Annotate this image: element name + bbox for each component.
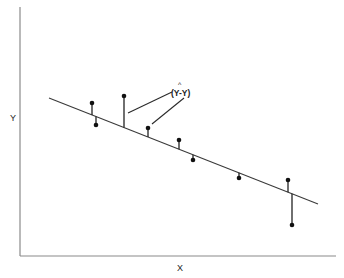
- data-point: [94, 123, 99, 128]
- data-point: [146, 126, 151, 131]
- annotation-hat: ^: [178, 81, 182, 88]
- data-point: [177, 138, 182, 143]
- annotation-label: (Y-Y): [171, 88, 191, 98]
- leader-line: [152, 98, 184, 124]
- data-point: [191, 158, 196, 163]
- data-point: [290, 223, 295, 228]
- regression-residual-diagram: Y X ^ (Y-Y): [0, 0, 344, 278]
- data-point: [90, 101, 95, 106]
- regression-line: [49, 98, 318, 204]
- y-axis-label: Y: [10, 113, 16, 123]
- data-point: [286, 178, 291, 183]
- x-axis-label: X: [177, 263, 183, 273]
- data-point: [237, 176, 242, 181]
- data-point: [122, 94, 127, 99]
- leader-line: [128, 92, 172, 113]
- data-points: [90, 94, 295, 228]
